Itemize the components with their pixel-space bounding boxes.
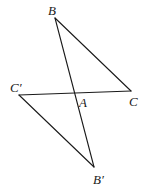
- geometry-diagram: B C′ A C B′: [0, 0, 146, 186]
- label-a: A: [78, 95, 87, 110]
- label-c-prime: C′: [10, 80, 22, 95]
- segment-b-c: [55, 18, 131, 91]
- label-c: C: [129, 94, 138, 109]
- label-b: B: [48, 3, 56, 18]
- label-b-prime: B′: [93, 172, 104, 186]
